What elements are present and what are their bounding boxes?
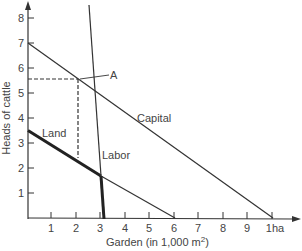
point-a-label: A (110, 69, 118, 81)
capital-label: Capital (137, 112, 171, 124)
svg-text:6: 6 (171, 222, 177, 234)
svg-text:8: 8 (220, 222, 226, 234)
svg-text:1ha: 1ha (266, 222, 285, 234)
x-axis-title: Garden (in 1,000 m2) (106, 235, 209, 248)
svg-text:2: 2 (73, 222, 79, 234)
x-axis (28, 218, 296, 219)
land-line (101, 176, 175, 218)
y-tick-labels: 1 2 3 4 5 6 7 8 (18, 12, 24, 199)
y-axis-title: Heads of cattle (0, 81, 12, 154)
chart: 1 2 3 4 5 6 7 8 1 2 3 4 5 6 7 8 9 1ha Ga… (0, 0, 302, 251)
svg-text:7: 7 (18, 37, 24, 49)
svg-text:6: 6 (18, 62, 24, 74)
labor-line (89, 5, 101, 176)
svg-text:1: 1 (48, 222, 54, 234)
svg-text:3: 3 (18, 137, 24, 149)
svg-text:8: 8 (18, 12, 24, 24)
svg-text:4: 4 (122, 222, 128, 234)
svg-text:3: 3 (97, 222, 103, 234)
land-label: Land (42, 127, 66, 139)
x-axis-arrow-icon (292, 216, 301, 222)
svg-text:2: 2 (18, 162, 24, 174)
svg-text:1: 1 (18, 187, 24, 199)
svg-text:4: 4 (18, 112, 24, 124)
y-axis-arrow-icon (25, 1, 31, 10)
x-tick-labels: 1 2 3 4 5 6 7 8 9 1ha (48, 222, 285, 234)
labor-line-thick (101, 176, 104, 219)
svg-text:5: 5 (146, 222, 152, 234)
svg-text:9: 9 (244, 222, 250, 234)
svg-text:7: 7 (195, 222, 201, 234)
svg-text:5: 5 (18, 87, 24, 99)
labor-label: Labor (102, 149, 130, 161)
